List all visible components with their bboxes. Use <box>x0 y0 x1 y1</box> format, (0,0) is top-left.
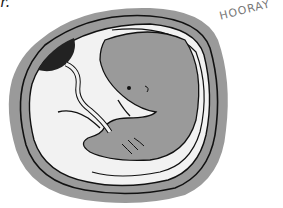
eye-dot <box>127 86 131 90</box>
embryo-illustration <box>0 0 283 208</box>
